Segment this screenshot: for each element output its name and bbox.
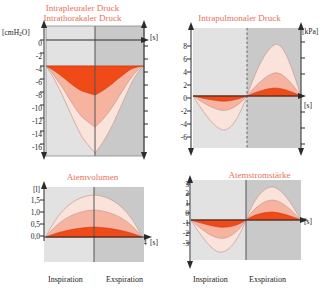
y-tick-label: 1 bbox=[169, 199, 189, 208]
y-tick-label: -3 bbox=[165, 239, 189, 248]
y-axis-unit-label: [cmH2O] bbox=[2, 28, 30, 37]
phase-label-inspiration: Inspiration bbox=[193, 275, 228, 284]
plot-area bbox=[193, 28, 301, 148]
y-tick-label: 1,5 bbox=[14, 196, 40, 205]
y-tick-label: 3 bbox=[169, 180, 189, 189]
x-axis-unit-label: [s] bbox=[304, 101, 312, 110]
y-tick-label: -2 bbox=[165, 229, 189, 238]
y-tick-label: -6 bbox=[159, 133, 187, 142]
chart-intrapulmonary-pressure: Intrapulmonaler Druck [cmH2O] [kPa] 8 6 … bbox=[165, 0, 330, 165]
phase-label-inspiration: Inspiration bbox=[48, 275, 83, 284]
y-tick-label: -16 bbox=[12, 143, 42, 152]
right-ticks bbox=[144, 46, 148, 137]
x-axis-unit-label: [s] bbox=[150, 238, 158, 247]
y-axis-right-unit-label: [kPa] bbox=[302, 27, 318, 36]
y-tick-label: 0 bbox=[16, 39, 42, 48]
y-tick-label: 1,0 bbox=[14, 208, 40, 217]
y-ticks bbox=[187, 46, 191, 137]
x-axis-unit-label: [s] bbox=[150, 33, 158, 42]
y-axis-unit-label: [l] bbox=[33, 185, 40, 194]
y-axis-arrow-down-icon bbox=[187, 261, 193, 269]
y-tick-label: -10 bbox=[12, 104, 42, 113]
y-tick-label: -4 bbox=[159, 120, 187, 129]
y-tick-label: 0 bbox=[163, 94, 187, 103]
chart-intrapleural-pressure: Intrapleuraler Druck Intrathorakaler Dru… bbox=[0, 0, 165, 165]
curves-svg bbox=[191, 180, 301, 260]
chart-tidal-volume: Atemvolumen [l] 1,5 1,0 0,5 0,0 0 2 4 [s… bbox=[0, 165, 165, 299]
curves-svg bbox=[46, 26, 144, 156]
phase-label-expiration: Exspiration bbox=[106, 275, 143, 284]
plot-area bbox=[44, 187, 144, 262]
plot-area bbox=[191, 180, 301, 260]
y-tick-label: -1 bbox=[165, 219, 189, 228]
y-axis-arrow-down-icon bbox=[188, 148, 194, 156]
phase-label-expiration: Exspiration bbox=[249, 275, 286, 284]
x-axis-unit-label: [s] bbox=[304, 217, 312, 226]
chart-title-line2: Intrathorakaler Druck bbox=[0, 14, 165, 24]
chart-title-line1: Atemvolumen bbox=[10, 173, 175, 183]
y-tick-label: 0,5 bbox=[14, 220, 40, 229]
y-tick-label: -12 bbox=[12, 117, 42, 126]
y-tick-label: -14 bbox=[12, 130, 42, 139]
right-ticks bbox=[301, 42, 305, 144]
band-resting-breathing bbox=[193, 88, 301, 101]
y-tick-label: -6 bbox=[16, 78, 42, 87]
right-axis-arrow-down-icon bbox=[298, 148, 304, 156]
plot-area bbox=[46, 26, 144, 156]
y-tick-label: 0 bbox=[169, 209, 189, 218]
y-tick-label: 2 bbox=[169, 189, 189, 198]
respiratory-mechanics-figure: Intrapleuraler Druck Intrathorakaler Dru… bbox=[0, 0, 330, 299]
curves-svg bbox=[193, 28, 301, 148]
curves-svg bbox=[44, 187, 144, 262]
y-tick-label: -2 bbox=[16, 52, 42, 61]
y-tick-label: 2 bbox=[163, 81, 187, 90]
y-tick-label: -8 bbox=[16, 91, 42, 100]
y-tick-label: 4 bbox=[163, 68, 187, 77]
y-tick-label: -2 bbox=[159, 107, 187, 116]
y-tick-label: 8 bbox=[163, 42, 187, 51]
y-tick-label: 0,0 bbox=[14, 232, 40, 241]
y-tick-label: -4 bbox=[16, 65, 42, 74]
chart-air-flow-rate: Atemstromstärke [l·s-1] 3 2 1 0 -1 -2 -3… bbox=[165, 165, 330, 299]
y-tick-label: 6 bbox=[163, 55, 187, 64]
chart-title-line1: Intrapulmonaler Druck bbox=[157, 14, 322, 24]
